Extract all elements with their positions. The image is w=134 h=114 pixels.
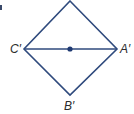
label-c-prime: C′	[10, 43, 21, 55]
center-point	[67, 46, 72, 51]
rhombus-diagram	[0, 0, 134, 114]
label-b-prime: B′	[64, 100, 74, 112]
label-a-prime: A′	[120, 43, 130, 55]
